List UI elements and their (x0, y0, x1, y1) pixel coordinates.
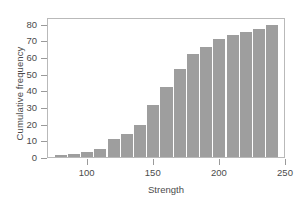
x-tick-label: 100 (67, 167, 107, 178)
bar (160, 87, 173, 157)
bar (94, 149, 107, 157)
cumulative-frequency-chart: Cumulative frequency 01020304050607080 1… (0, 0, 295, 204)
x-axis-label: Strength (47, 184, 285, 195)
y-tick-label: 70 (0, 36, 37, 45)
bar (121, 134, 134, 157)
x-tick-mark (285, 159, 286, 165)
x-tick-label: 200 (199, 167, 239, 178)
x-tick-label: 250 (265, 167, 295, 178)
bar (240, 32, 253, 157)
bar (147, 105, 160, 157)
bar (253, 29, 266, 157)
bar (108, 139, 121, 157)
bar (81, 152, 94, 157)
y-tick-mark (41, 158, 47, 159)
bar-series (48, 19, 284, 157)
x-tick-mark (153, 159, 154, 165)
bar (134, 125, 147, 157)
bar (200, 47, 213, 157)
y-tick-label: 0 (0, 153, 37, 162)
bar (55, 155, 68, 157)
x-tick-label: 150 (133, 167, 173, 178)
plot-area (47, 18, 285, 158)
y-tick-label: 80 (0, 20, 37, 29)
bar (187, 54, 200, 157)
y-tick-label: 30 (0, 103, 37, 112)
y-tick-label: 40 (0, 86, 37, 95)
bar (266, 25, 279, 157)
bar (174, 69, 187, 157)
x-tick-mark (87, 159, 88, 165)
bar (213, 39, 226, 157)
y-tick-label: 60 (0, 53, 37, 62)
y-tick-label: 20 (0, 120, 37, 129)
x-tick-mark (219, 159, 220, 165)
y-tick-label: 50 (0, 70, 37, 79)
bar (227, 35, 240, 157)
y-tick-label: 10 (0, 136, 37, 145)
bar (68, 154, 81, 157)
